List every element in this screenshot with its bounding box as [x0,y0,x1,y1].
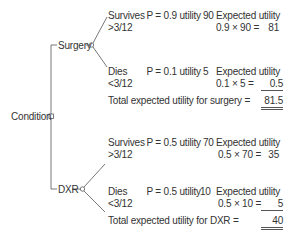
probability-value: P = 0.5 utility [146,137,200,148]
outcome-label: Survives [108,10,145,21]
utility-value: 5 [203,66,208,77]
outcome-sublabel: >3/12 [108,149,132,160]
utility-value: 70 [203,137,214,148]
probability-text: PP = 0.5 utility [146,137,201,148]
expected-utility-label: Expected utility [216,10,280,21]
root-node-label: Condition [11,111,51,122]
expected-utility-label: Expected utility [216,66,280,77]
outcome-label: Dies [108,66,127,77]
outcome-sublabel: >3/12 [108,22,132,33]
total-label: Total expected utility for DXR = [108,215,239,226]
utility-value: 90 [203,10,214,21]
probability-value: P = 0.9 utility [146,10,200,21]
probability-value: P = 0.1 utility [146,66,200,77]
expected-utility-value: 0.5 [261,78,283,91]
outcome-sublabel: <3/12 [108,198,132,209]
expected-utility-label: Expected utility [216,137,280,148]
branch-label-surgery: Surgery [58,40,92,51]
expected-utility-calc: 0.1 × 5 = [216,78,254,89]
total-value: 40 [261,215,283,230]
probability-text: PP = 0.9 utility [146,10,201,21]
outcome-sublabel: <3/12 [108,78,132,89]
expected-utility-value: 5 [261,198,283,211]
total-value: 81.5 [261,95,283,110]
expected-utility-calc: 0.9 × 90 = [216,22,259,33]
expected-utility-value: 81 [268,22,279,33]
outcome-label: Dies [108,186,127,197]
outcome-label: Survives [108,137,145,148]
decision-tree: Condition Surgery Survives >3/12 PP = 0.… [0,0,301,232]
expected-utility-calc: 0.5 × 10 = [218,198,261,209]
probability-text: PP = 0.1 utility [146,66,201,77]
probability-value: P = 0.5 utility [146,186,200,197]
total-label: Total expected utility for surgery = [108,95,250,106]
expected-utility-label: Expected utility [216,186,280,197]
expected-utility-value: 35 [268,149,279,160]
probability-text: PP = 0.5 utility [146,186,201,197]
expected-utility-calc: 0.5 × 70 = [218,149,261,160]
utility-value: 10 [200,186,211,197]
branch-label-dxr: DXR [58,184,79,195]
